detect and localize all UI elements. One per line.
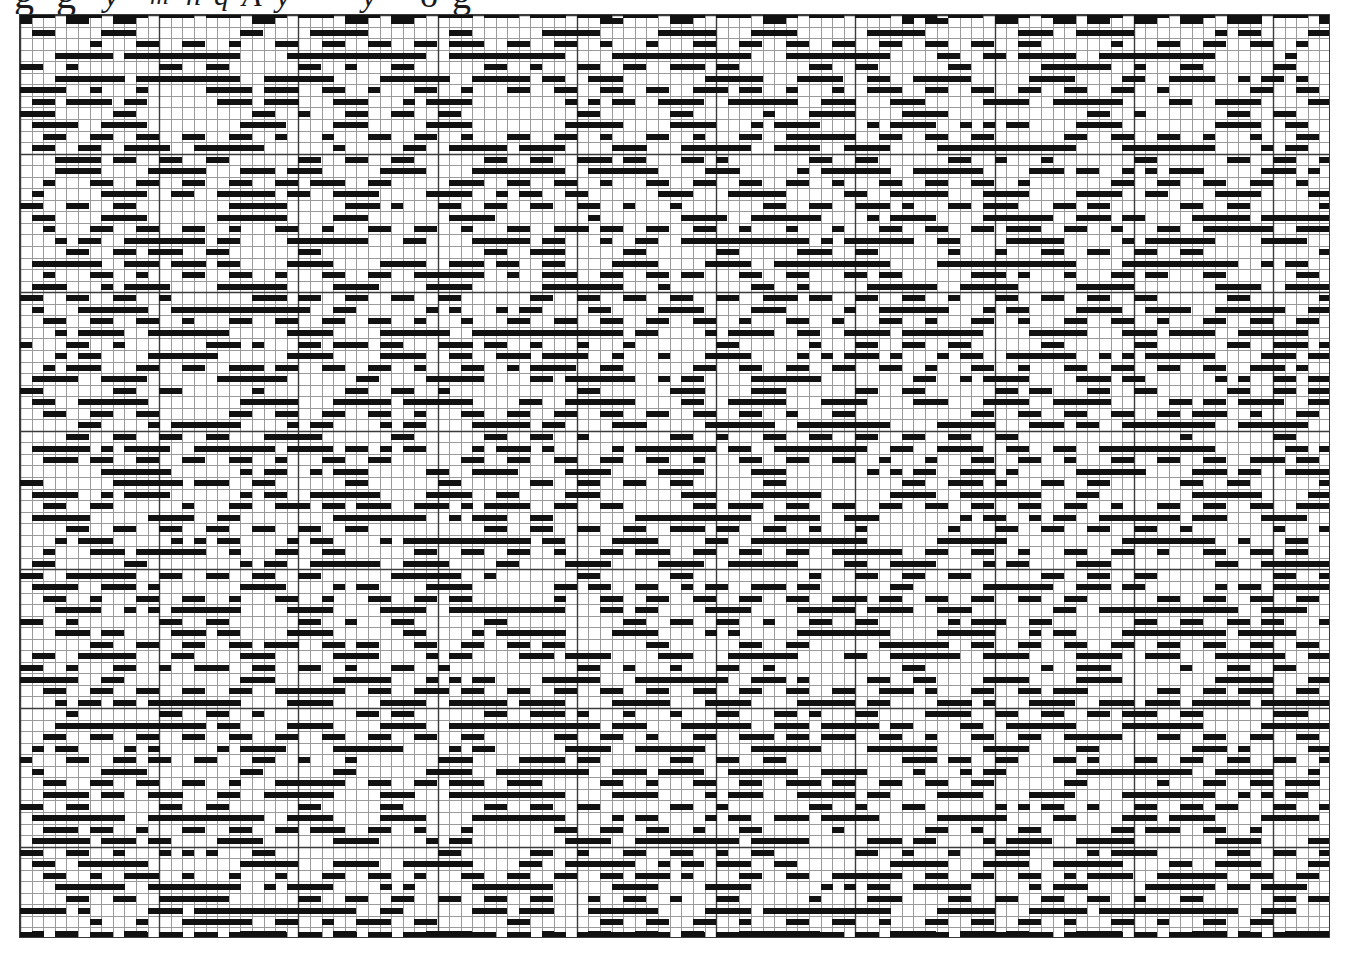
handwriting-fragment: y [104, 0, 121, 14]
handwritten-annotation-strip: ggymhqAy—yog [0, 0, 1362, 14]
handwriting-fragment: m [150, 0, 171, 11]
handwriting-fragment: h [186, 0, 203, 12]
weaving-draft-grid [19, 14, 1330, 938]
handwriting-fragment: o [420, 0, 440, 14]
handwriting-fragment: y [276, 0, 292, 14]
handwriting-fragment: — [310, 0, 346, 14]
draft-grid-canvas [20, 15, 1330, 938]
handwriting-fragment: A [242, 0, 264, 14]
handwriting-fragment: g [452, 0, 473, 14]
handwriting-fragment: g [56, 0, 78, 14]
handwriting-fragment: y [362, 0, 378, 14]
handwriting-fragment: q [214, 0, 231, 12]
handwriting-fragment: g [14, 0, 36, 14]
weaving-draft-page: ggymhqAy—yog Point-twill / overshot weav… [0, 0, 1362, 973]
